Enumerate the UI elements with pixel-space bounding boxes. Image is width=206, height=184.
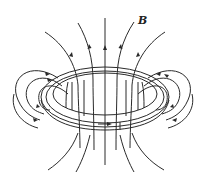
current-loop-field-diagram: B: [0, 0, 206, 184]
right-field-loops: [138, 71, 193, 128]
field-label-B: B: [137, 14, 147, 27]
left-field-loops: [13, 71, 68, 128]
central-field-lines: [45, 18, 165, 172]
